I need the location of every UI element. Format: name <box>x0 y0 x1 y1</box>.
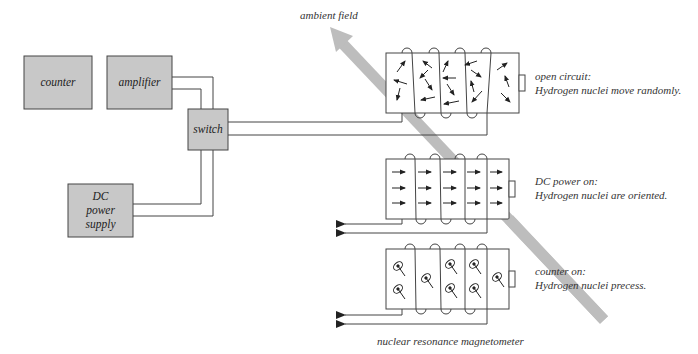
dc-power-supply-label: DC power supply <box>68 189 133 231</box>
state-dc-power-caption: DC power on: Hydrogen nuclei are oriente… <box>535 174 667 202</box>
state-heading: DC power on: <box>535 174 667 188</box>
state-heading: counter on: <box>535 264 646 278</box>
wires-switch-power <box>133 150 213 216</box>
coil-dc-power-on <box>345 154 515 233</box>
dc-power-supply-line-2: power <box>68 203 133 217</box>
state-description: Hydrogen nuclei are oriented. <box>535 188 667 202</box>
dc-power-supply-line-3: supply <box>68 217 133 231</box>
wires-switch-coil <box>228 113 487 135</box>
counter-label: counter <box>24 75 92 89</box>
state-heading: open circuit: <box>535 69 681 83</box>
wires-amplifier-switch <box>172 77 213 109</box>
dc-power-supply-line-1: DC <box>68 189 133 203</box>
coil-open-circuit <box>386 48 525 118</box>
coil-counter-on <box>345 244 515 324</box>
state-description: Hydrogen nuclei precess. <box>535 278 646 292</box>
ambient-field-label: ambient field <box>300 8 358 22</box>
diagram-title: nuclear resonance magnetometer <box>377 334 524 348</box>
state-counter-on-caption: counter on: Hydrogen nuclei precess. <box>535 264 646 292</box>
switch-label: switch <box>188 122 228 136</box>
state-open-circuit-caption: open circuit: Hydrogen nuclei move rando… <box>535 69 681 97</box>
state-description: Hydrogen nuclei move randomly. <box>535 83 681 97</box>
amplifier-label: amplifier <box>107 75 172 89</box>
